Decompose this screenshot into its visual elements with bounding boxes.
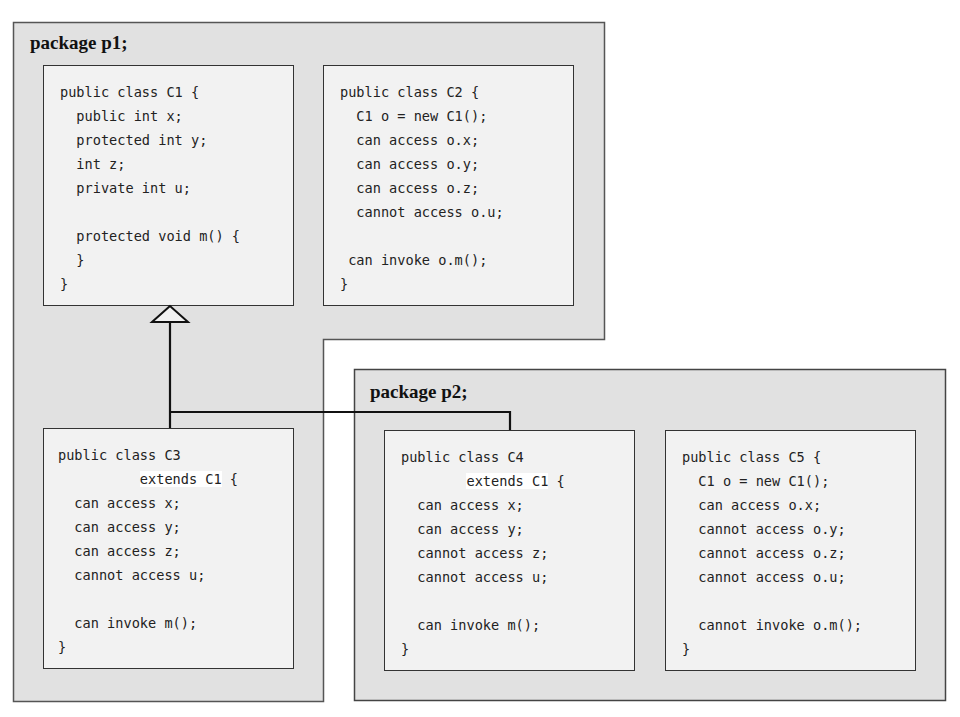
inheritance-connectors xyxy=(0,0,960,717)
c4-inheritance-line xyxy=(170,412,510,430)
inheritance-arrowhead-icon xyxy=(152,306,188,322)
